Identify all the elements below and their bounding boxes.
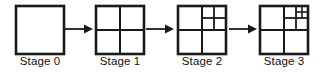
stage-1: Stage 1 (80, 0, 160, 75)
stage-2-svg (176, 4, 228, 56)
stage-sequence-figure: Stage 0 Stage 1 (0, 0, 324, 75)
stage-3: Stage 3 (244, 0, 324, 75)
stage-3-label: Stage 3 (244, 54, 324, 68)
stage-2-diagram (176, 4, 228, 56)
stage-1-label: Stage 1 (80, 54, 160, 68)
stage-1-svg (94, 4, 146, 56)
stage-0-svg (14, 4, 66, 56)
stage-3-svg (258, 4, 310, 56)
stage-2-label: Stage 2 (162, 54, 242, 68)
outer-square (16, 6, 64, 54)
stage-1-diagram (94, 4, 146, 56)
stage-2: Stage 2 (162, 0, 242, 75)
stage-3-diagram (258, 4, 310, 56)
stage-0-label: Stage 0 (0, 54, 80, 68)
stage-0-diagram (14, 4, 66, 56)
stage-0: Stage 0 (0, 0, 80, 75)
